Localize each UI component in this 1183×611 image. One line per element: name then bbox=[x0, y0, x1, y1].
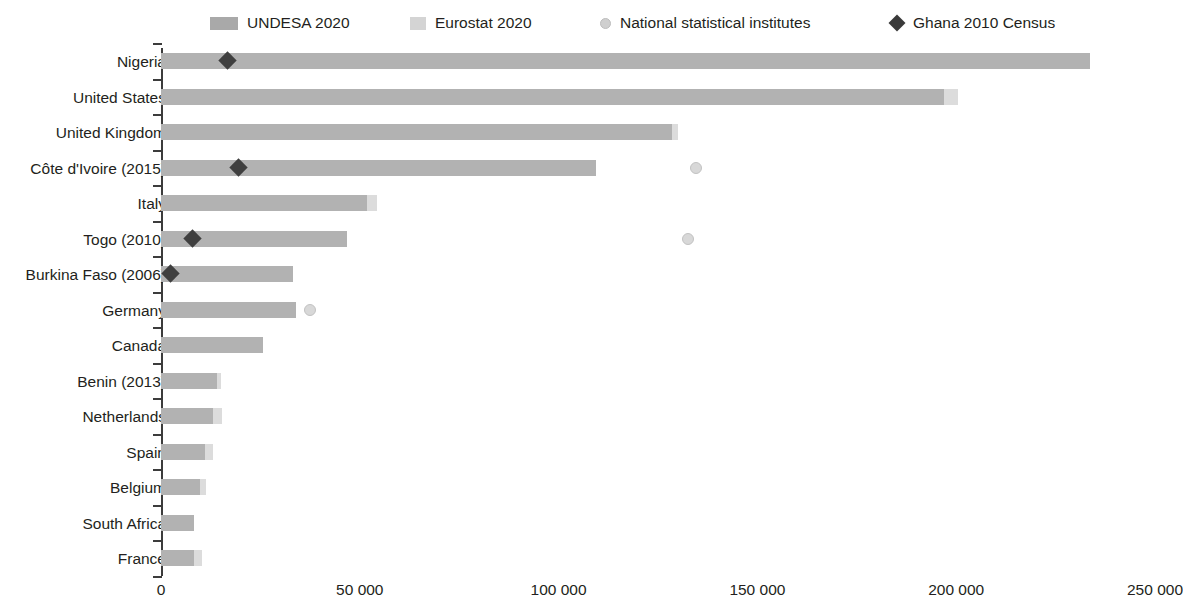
bar-row bbox=[161, 302, 1155, 318]
y-axis-tick bbox=[153, 221, 162, 223]
bar-row bbox=[161, 444, 1155, 460]
legend-label-undesa: UNDESA 2020 bbox=[247, 15, 350, 31]
bar-row bbox=[161, 53, 1155, 69]
x-axis-tick-label: 250 000 bbox=[1127, 582, 1183, 598]
bar-segment-undesa bbox=[161, 266, 293, 282]
legend-item-ghana-census: Ghana 2010 Census bbox=[890, 8, 1055, 38]
diamond-marker-icon bbox=[890, 16, 904, 30]
y-axis-tick bbox=[153, 327, 162, 329]
bar-segment-undesa bbox=[161, 160, 596, 176]
bar-row bbox=[161, 231, 1155, 247]
legend-item-undesa: UNDESA 2020 bbox=[210, 8, 350, 38]
data-point-national-statistical-institute bbox=[682, 233, 694, 245]
bar-row bbox=[161, 266, 1155, 282]
bar-segment-undesa bbox=[161, 124, 672, 140]
y-axis-tick bbox=[153, 434, 162, 436]
y-axis-tick bbox=[153, 540, 162, 542]
y-axis-tick bbox=[153, 505, 162, 507]
y-axis-label: Germany bbox=[102, 303, 166, 319]
y-axis-label: South Africa bbox=[82, 516, 166, 532]
eurostat-swatch-icon bbox=[410, 17, 426, 30]
y-axis-tick bbox=[153, 185, 162, 187]
bar-row bbox=[161, 195, 1155, 211]
y-axis-label: France bbox=[118, 551, 166, 567]
y-axis-tick bbox=[153, 469, 162, 471]
bar-segment-undesa bbox=[161, 373, 217, 389]
undesa-swatch-icon bbox=[210, 17, 238, 30]
plot-area: NigeriaUnited StatesUnited KingdomCôte d… bbox=[0, 44, 1177, 574]
y-axis-label: Benin (2013) bbox=[77, 374, 166, 390]
bar-segment-undesa bbox=[161, 53, 1090, 69]
y-axis-tick bbox=[153, 43, 162, 45]
y-axis-label: Netherlands bbox=[82, 409, 166, 425]
bar-row bbox=[161, 160, 1155, 176]
y-axis-tick bbox=[153, 150, 162, 152]
bar-row bbox=[161, 124, 1155, 140]
y-axis-tick bbox=[153, 292, 162, 294]
x-axis-tick-label: 50 000 bbox=[336, 582, 383, 598]
bar-row bbox=[161, 373, 1155, 389]
bar-segment-undesa bbox=[161, 302, 296, 318]
bar-row bbox=[161, 550, 1155, 566]
legend-item-eurostat: Eurostat 2020 bbox=[410, 8, 532, 38]
bar-segment-undesa bbox=[161, 550, 194, 566]
y-axis-tick bbox=[153, 114, 162, 116]
bar-segment-undesa bbox=[161, 515, 194, 531]
y-axis-label: United States bbox=[73, 90, 166, 106]
y-axis-label: Belgium bbox=[110, 480, 166, 496]
y-axis-tick bbox=[153, 79, 162, 81]
x-axis: 050 000100 000150 000200 000250 000 bbox=[0, 574, 1177, 611]
x-axis-tick-label: 150 000 bbox=[729, 582, 785, 598]
y-axis-tick bbox=[153, 398, 162, 400]
y-axis-label: Burkina Faso (2006) bbox=[26, 267, 166, 283]
y-axis-tick bbox=[153, 256, 162, 258]
bar-row bbox=[161, 89, 1155, 105]
bar-segment-undesa bbox=[161, 444, 205, 460]
circle-marker-icon bbox=[600, 18, 611, 29]
bar-row bbox=[161, 337, 1155, 353]
y-axis-tick bbox=[153, 363, 162, 365]
bar-segment-undesa bbox=[161, 408, 213, 424]
bar-row bbox=[161, 408, 1155, 424]
y-axis-label: Côte d'Ivoire (2015) bbox=[30, 161, 166, 177]
x-axis-tick-label: 200 000 bbox=[928, 582, 984, 598]
x-axis-tick-label: 100 000 bbox=[531, 582, 587, 598]
legend-item-national-statistical-institutes: National statistical institutes bbox=[600, 8, 810, 38]
bar-segment-undesa bbox=[161, 337, 263, 353]
bar-row bbox=[161, 479, 1155, 495]
y-axis-label: Nigeria bbox=[117, 54, 166, 70]
legend-label-ghana: Ghana 2010 Census bbox=[913, 15, 1055, 31]
legend-label-nsi: National statistical institutes bbox=[620, 15, 810, 31]
bar-segment-undesa bbox=[161, 479, 200, 495]
y-axis-label: Togo (2010) bbox=[83, 232, 166, 248]
legend-label-eurostat: Eurostat 2020 bbox=[435, 15, 532, 31]
data-point-national-statistical-institute bbox=[690, 162, 702, 174]
chart-legend: UNDESA 2020 Eurostat 2020 National stati… bbox=[0, 8, 1177, 38]
y-axis-label: Canada bbox=[112, 338, 166, 354]
bar-row bbox=[161, 515, 1155, 531]
x-axis-tick-label: 0 bbox=[157, 582, 166, 598]
data-point-national-statistical-institute bbox=[304, 304, 316, 316]
bar-segment-undesa bbox=[161, 195, 367, 211]
y-axis-label: United Kingdom bbox=[56, 125, 166, 141]
bar-segment-undesa bbox=[161, 89, 944, 105]
